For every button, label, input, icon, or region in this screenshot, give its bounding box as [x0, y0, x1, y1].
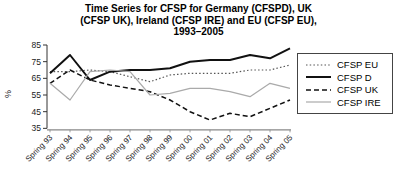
legend-item-cfsp-uk: CFSP UK	[305, 84, 390, 95]
chart-figure: Time Series for CFSP for Germany (CFSPD)…	[0, 0, 397, 185]
legend-item-cfsp-d: CFSP D	[305, 72, 390, 83]
legend-label: CFSP IRE	[337, 97, 381, 108]
legend-label: CFSP UK	[337, 84, 378, 95]
y-tick-label: 55	[32, 90, 42, 100]
y-tick-label: 65	[32, 73, 42, 83]
y-tick-label: 75	[32, 57, 42, 67]
legend: CFSP EUCFSP DCFSP UKCFSP IRE	[297, 53, 393, 114]
legend-swatch-cfsp-ire-icon	[305, 97, 332, 107]
legend-swatch-cfsp-d-icon	[305, 72, 332, 82]
legend-item-cfsp-ire: CFSP IRE	[305, 97, 390, 108]
legend-swatch-cfsp-uk-icon	[305, 85, 332, 95]
y-tick-label: 85	[32, 40, 42, 50]
y-tick-label: 35	[32, 123, 42, 133]
y-tick-label: 45	[32, 107, 42, 117]
legend-swatch-cfsp-eu-icon	[305, 60, 332, 70]
legend-label: CFSP D	[337, 72, 372, 83]
legend-item-cfsp-eu: CFSP EU	[305, 59, 390, 70]
legend-label: CFSP EU	[337, 59, 378, 70]
